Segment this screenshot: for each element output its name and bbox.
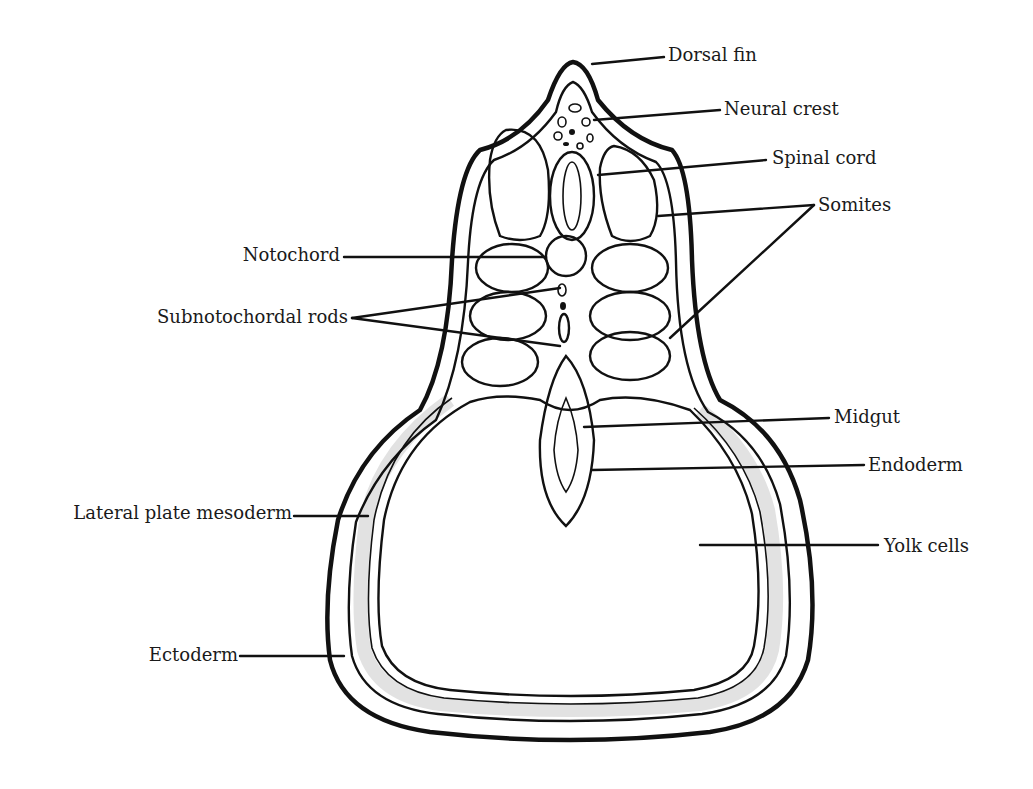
yolk-mass: [378, 396, 758, 696]
leader-subnotochordal-lower: [352, 318, 560, 346]
leader-endoderm: [592, 465, 864, 470]
label-spinal-cord: Spinal cord: [772, 149, 876, 167]
leader-somites-upper: [658, 205, 814, 216]
label-midgut: Midgut: [834, 408, 900, 426]
notochord-structure: [546, 236, 586, 276]
subnotochordal-rods-structure: [558, 284, 569, 342]
label-lateral-plate-mesoderm: Lateral plate mesoderm: [20, 504, 292, 522]
neural-crest-cells: [554, 104, 593, 149]
leader-subnotochordal-upper: [352, 288, 560, 318]
embryo-cross-section-diagram: [0, 0, 1033, 789]
midgut-structure: [540, 356, 594, 526]
label-notochord: Notochord: [190, 246, 340, 264]
label-dorsal-fin: Dorsal fin: [668, 46, 757, 64]
somites-right: [590, 146, 670, 380]
label-yolk-cells: Yolk cells: [884, 537, 969, 555]
label-ectoderm: Ectoderm: [100, 646, 238, 664]
label-endoderm: Endoderm: [868, 456, 963, 474]
spinal-cord-structure: [550, 152, 594, 240]
lateral-plate-mesoderm-band: [360, 398, 776, 710]
label-subnotochordal-rods: Subnotochordal rods: [100, 308, 348, 326]
label-somites: Somites: [818, 196, 891, 214]
leader-dorsal-fin: [592, 57, 664, 64]
label-neural-crest: Neural crest: [724, 100, 839, 118]
